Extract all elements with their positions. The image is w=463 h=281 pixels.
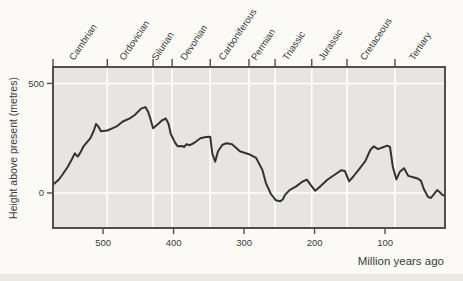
- period-label-triassic: Triassic: [280, 29, 307, 62]
- period-label-cretaceous: Cretaceous: [358, 15, 394, 62]
- x-tick-label-200: 200: [307, 237, 323, 248]
- y-axis-title: Height above present (metres): [7, 77, 19, 219]
- period-label-devonian: Devonian: [178, 23, 210, 62]
- period-label-ordovician: Ordovician: [117, 18, 152, 62]
- y-tick-label-0: 0: [39, 187, 44, 198]
- x-tick-label-500: 500: [95, 237, 111, 248]
- x-axis-title: Million years ago: [358, 255, 444, 267]
- chart-canvas: CambrianOrdovicianSilurianDevonianCarbon…: [0, 0, 463, 281]
- period-label-permian: Permian: [249, 27, 278, 62]
- y-tick-label-500: 500: [28, 78, 44, 89]
- period-label-cambrian: Cambrian: [67, 22, 99, 62]
- x-tick-label-400: 400: [166, 237, 182, 248]
- sea-level-chart: CambrianOrdovicianSilurianDevonianCarbon…: [0, 0, 463, 281]
- period-label-silurian: Silurian: [149, 30, 176, 62]
- period-label-jurassic: Jurassic: [316, 27, 345, 62]
- page-edge-shadow: [0, 274, 463, 281]
- x-tick-label-100: 100: [377, 237, 393, 248]
- period-label-tertiary: Tertiary: [407, 30, 434, 62]
- x-tick-label-300: 300: [236, 237, 252, 248]
